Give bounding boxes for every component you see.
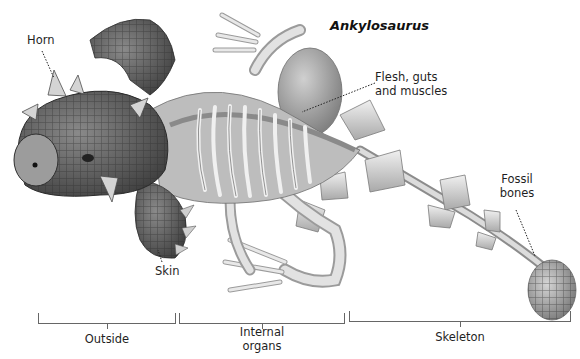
tail-skeleton	[296, 100, 576, 320]
callout-flesh: Flesh, guts and muscles	[375, 70, 447, 98]
bracket-internal-organs	[179, 313, 345, 324]
callout-fossil-line1: Fossil	[497, 172, 537, 186]
bracket-tick	[107, 323, 108, 329]
callout-fossil: Fossil bones	[497, 172, 537, 200]
ankylosaurus-diagram: Ankylosaurus Horn Flesh, guts and muscle…	[0, 0, 580, 359]
callout-flesh-line1: Flesh, guts	[375, 70, 447, 84]
lower-front-leg	[230, 200, 250, 270]
section-label-internal-organs: Internal organs	[179, 325, 345, 353]
diagram-title: Ankylosaurus	[330, 18, 429, 33]
dinosaur-illustration	[0, 0, 580, 359]
section-label-outside: Outside	[38, 332, 176, 346]
callout-flesh-line2: and muscles	[375, 84, 447, 98]
bracket-tick	[460, 321, 461, 327]
section-label-internal-line1: Internal	[179, 325, 345, 339]
bracket-skeleton	[349, 311, 571, 322]
callout-horn: Horn	[27, 33, 55, 47]
section-label-skeleton: Skeleton	[349, 330, 571, 344]
bracket-outside	[38, 313, 176, 324]
callout-skin: Skin	[155, 264, 179, 278]
callout-fossil-line2: bones	[497, 186, 537, 200]
horn-leader	[42, 51, 54, 78]
section-label-internal-line2: organs	[179, 339, 345, 353]
armored-upper-arm	[90, 19, 175, 95]
